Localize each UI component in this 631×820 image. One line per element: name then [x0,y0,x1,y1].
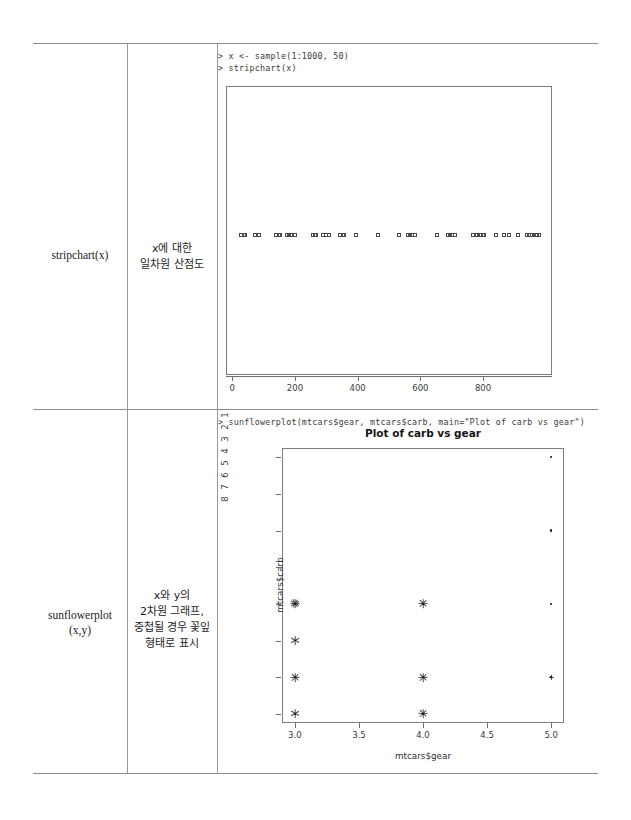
stripchart-figure: 0200400600800 [218,43,598,409]
description-line: 일차원 산점도 [127,257,217,273]
sunflowerplot-y-tick [276,677,281,678]
stripchart-x-tick-label: 600 [405,383,435,393]
description-line: x에 대한 [127,241,217,257]
stripchart-point [534,233,538,237]
sunflowerplot-x-tick-label: 4.0 [408,730,438,740]
stripchart-point [507,233,511,237]
function-name-stripchart: stripchart(x) [33,248,127,263]
sunflowerplot-x-tick [423,723,424,728]
sunflowerplot-x-tick-label: 4.5 [472,730,502,740]
function-name-line: (x,y) [69,624,91,636]
stripchart-x-tick-label: 400 [343,383,373,393]
stripchart-point [527,233,531,237]
stripchart-point [324,233,328,237]
stripchart-point [397,233,401,237]
stripchart-point [516,233,520,237]
stripchart-point [413,233,417,237]
stripchart-x-tick [420,377,421,381]
stripchart-x-tick [483,377,484,381]
stripchart-point [481,233,485,237]
sunflowerplot-y-axis-label: mtcars$carb [275,535,285,635]
sunflowerplot-y-tick [276,567,281,568]
stripchart-point [474,233,478,237]
stripchart-point [408,233,412,237]
stripchart-point [448,233,452,237]
reference-table: stripchart(x) x에 대한 일차원 산점도 > x <- sampl… [33,43,598,773]
stripchart-point [537,233,541,237]
stripchart-x-tick [232,377,233,381]
sunflower-center-dot [294,603,296,605]
function-name-sunflowerplot: sunflowerplot (x,y) [33,608,127,638]
stripchart-point [277,233,281,237]
description-line: x와 y의 [127,588,217,604]
sunflowerplot-plot-area [282,448,564,723]
stripchart-point [293,233,297,237]
stripchart-point [502,233,506,237]
stripchart-point [313,233,317,237]
stripchart-point [494,233,498,237]
sunflowerplot-x-axis-label: mtcars$gear [282,751,564,761]
sunflowerplot-y-tick [276,604,281,605]
stripchart-x-axis [226,376,552,377]
stripchart-x-tick [358,377,359,381]
stripchart-x-tick-label: 0 [217,383,247,393]
table-border-bottom [33,773,598,774]
stripchart-point [354,233,358,237]
sunflowerplot-x-tick [359,723,360,728]
stripchart-x-tick [295,377,296,381]
description-line: 형태로 표시 [127,636,217,652]
stripchart-point [287,233,291,237]
stripchart-point [453,233,457,237]
description-line: 2차원 그래프, [127,604,217,620]
sunflowerplot-x-tick [551,723,552,728]
sunflower-center-dot [294,713,296,715]
description-stripchart: x에 대한 일차원 산점도 [127,241,217,273]
sunflowerplot-y-tick-label: 8 [220,491,232,507]
sunflowerplot-y-tick [276,714,281,715]
description-sunflowerplot: x와 y의 2차원 그래프, 중첩될 경우 꽃잎 형태로 표시 [127,588,217,652]
stripchart-point [257,233,261,237]
sunflower-center-dot [422,713,424,715]
function-name-line: sunflowerplot [48,609,112,621]
sunflowerplot-y-tick [276,641,281,642]
sunflower-center-dot [422,676,424,678]
sunflowerplot-x-tick-label: 5.0 [536,730,566,740]
sunflowerplot-x-tick-label: 3.0 [280,730,310,740]
stripchart-x-tick-label: 800 [468,383,498,393]
sunflowerplot-x-tick-label: 3.5 [344,730,374,740]
description-line: 중첩될 경우 꽃잎 [127,620,217,636]
sunflowerplot-y-tick [276,531,281,532]
sunflowerplot-title: Plot of carb vs gear [282,427,564,439]
table-column-divider-1 [127,43,128,773]
sunflowerplot-y-tick [276,457,281,458]
stripchart-point [435,233,439,237]
stripchart-point [341,233,345,237]
sunflowerplot-x-tick [487,723,488,728]
sunflowerplot-x-tick [295,723,296,728]
sunflowerplot-figure: Plot of carb vs gear mtcars$gear mtcars$… [218,409,598,773]
sunflower-center-dot [294,676,296,678]
stripchart-plot-area [226,86,552,375]
stripchart-x-tick-label: 200 [280,383,310,393]
sunflower-center-dot [422,603,424,605]
stripchart-point [376,233,380,237]
sunflowerplot-y-tick [276,494,281,495]
stripchart-point [242,233,246,237]
